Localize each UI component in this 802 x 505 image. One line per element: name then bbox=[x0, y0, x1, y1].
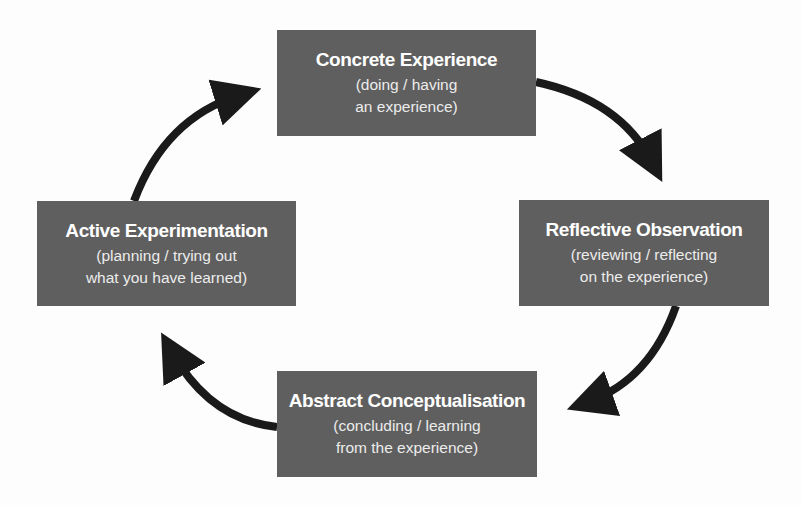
learning-cycle-diagram: Concrete Experience (doing / having an e… bbox=[0, 0, 802, 505]
stage-reflective-observation: Reflective Observation (reviewing / refl… bbox=[519, 200, 769, 306]
stage-subtitle-line2: what you have learned) bbox=[86, 267, 247, 289]
stage-subtitle-line1: (concluding / learning bbox=[333, 415, 480, 437]
stage-subtitle-line2: an experience) bbox=[355, 96, 458, 118]
stage-subtitle-line2: from the experience) bbox=[336, 437, 478, 459]
stage-subtitle-line1: (doing / having bbox=[356, 74, 458, 96]
stage-title: Reflective Observation bbox=[545, 218, 742, 242]
stage-title: Abstract Conceptualisation bbox=[289, 389, 526, 413]
stage-concrete-experience: Concrete Experience (doing / having an e… bbox=[277, 30, 536, 136]
arrow-abstract-to-active bbox=[172, 352, 277, 427]
stage-abstract-conceptualisation: Abstract Conceptualisation (concluding /… bbox=[277, 371, 537, 477]
arrow-active-to-concrete bbox=[134, 95, 240, 201]
stage-active-experimentation: Active Experimentation (planning / tryin… bbox=[37, 201, 296, 306]
stage-subtitle-line1: (planning / trying out bbox=[96, 245, 236, 267]
stage-title: Active Experimentation bbox=[65, 219, 267, 243]
stage-subtitle-line1: (reviewing / reflecting bbox=[571, 244, 717, 266]
stage-subtitle-line2: on the experience) bbox=[580, 266, 708, 288]
stage-title: Concrete Experience bbox=[316, 48, 497, 72]
arrow-concrete-to-reflective bbox=[536, 82, 652, 162]
arrow-reflective-to-abstract bbox=[588, 306, 676, 402]
